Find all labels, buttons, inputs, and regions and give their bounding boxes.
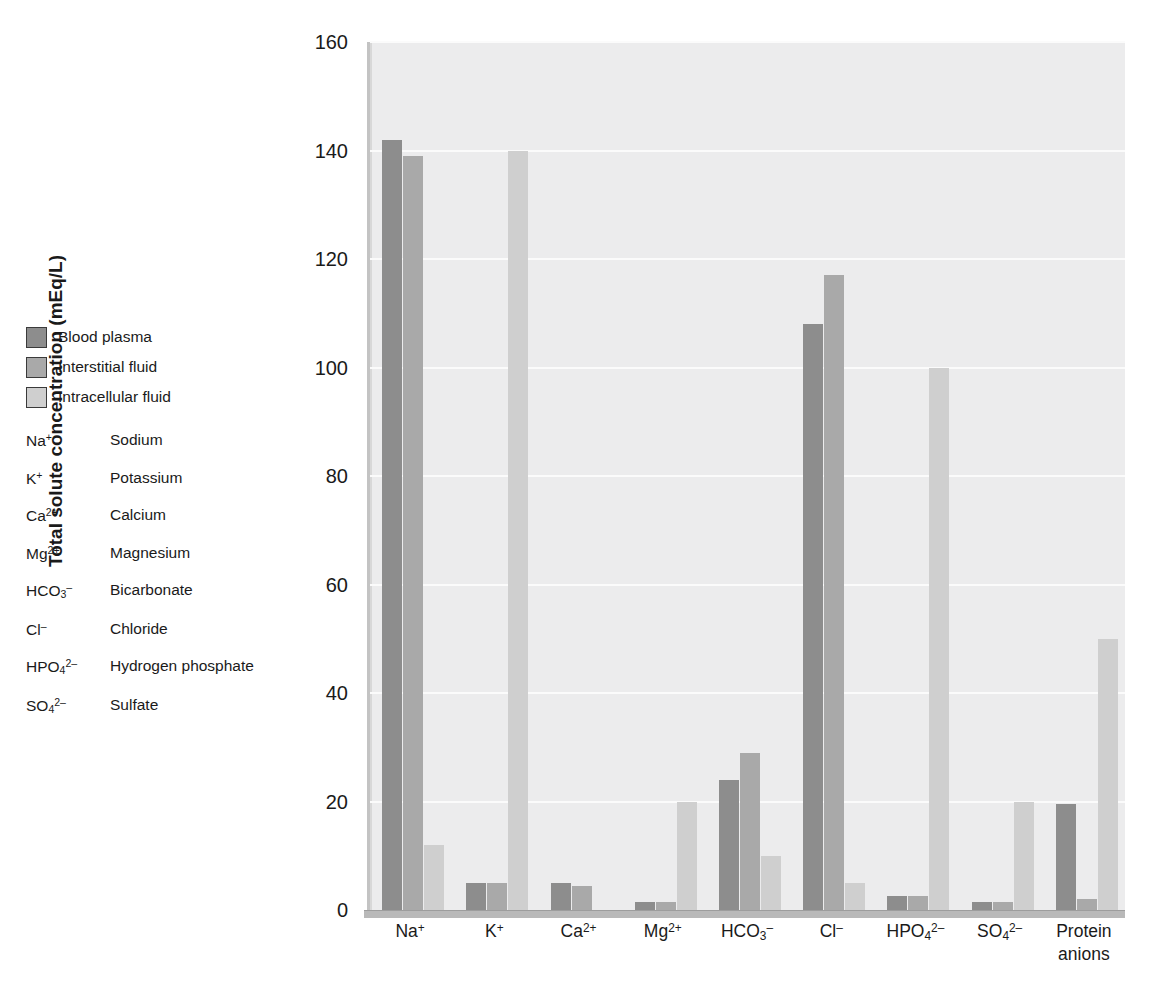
- bar-group: [972, 42, 1036, 910]
- abbreviation-name: Bicarbonate: [110, 581, 193, 599]
- abbreviation-symbol: Mg2+: [26, 544, 110, 563]
- bar: [677, 802, 697, 911]
- bar: [382, 140, 402, 910]
- abbreviation-symbol: Ca2+: [26, 506, 110, 525]
- bar: [824, 275, 844, 910]
- bars-layer: [370, 42, 1125, 910]
- bar: [1077, 899, 1097, 910]
- bar: [972, 902, 992, 910]
- bar-group: [1056, 42, 1120, 910]
- legend-swatch-intracellular-fluid: [26, 387, 47, 408]
- abbreviation-symbol: Cl–: [26, 620, 110, 639]
- abbreviation-row: HPO42–Hydrogen phosphate: [26, 657, 276, 676]
- bar: [993, 902, 1013, 910]
- x-axis-tick-label: Cl–: [820, 920, 843, 943]
- y-axis-title: Total solute concentration (mEq/L): [45, 251, 67, 571]
- plot-area: [367, 42, 1125, 910]
- x-axis-baseline: [364, 910, 1125, 918]
- bar: [740, 753, 760, 910]
- y-axis-tick-label: 60: [326, 575, 348, 595]
- x-axis-tick-label: Na+: [395, 920, 424, 943]
- y-axis-tick-label: 40: [326, 683, 348, 703]
- bar: [929, 368, 949, 911]
- x-axis-tick-label: Mg2+: [644, 920, 682, 943]
- y-axis-tick-label: 160: [315, 32, 348, 52]
- abbreviation-name: Chloride: [110, 620, 168, 638]
- bar-group: [551, 42, 615, 910]
- bar: [761, 856, 781, 910]
- bar: [403, 156, 423, 910]
- abbreviation-name: Sulfate: [110, 696, 158, 714]
- bar-group: [382, 42, 446, 910]
- abbreviation-name: Hydrogen phosphate: [110, 657, 254, 675]
- bar: [887, 896, 907, 910]
- bar: [635, 902, 655, 910]
- abbreviation-row: HCO3–Bicarbonate: [26, 581, 276, 600]
- y-axis-tick-labels: 020406080100120140160: [300, 42, 358, 910]
- x-axis-tick-label: HPO42–: [887, 920, 945, 944]
- x-axis-tick-label: K+: [485, 920, 504, 943]
- x-axis-tick-label: HCO3–: [721, 920, 773, 944]
- y-axis-tick-label: 120: [315, 249, 348, 269]
- y-axis-tick-label: 80: [326, 466, 348, 486]
- abbreviation-row: Cl–Chloride: [26, 620, 276, 639]
- bar-group: [887, 42, 951, 910]
- abbreviation-symbol: HCO3–: [26, 581, 110, 600]
- x-axis-tick-label: SO42–: [977, 920, 1022, 944]
- legend-label-intracellular-fluid: Intracellular fluid: [58, 389, 171, 405]
- legend-swatch-interstitial-fluid: [26, 357, 47, 378]
- x-axis-tick-labels: Na+K+Ca2+Mg2+HCO3–Cl–HPO42–SO42–Proteina…: [367, 920, 1125, 990]
- abbreviation-row: SO42–Sulfate: [26, 696, 276, 715]
- bar: [572, 886, 592, 910]
- bar: [487, 883, 507, 910]
- legend-label-blood-plasma: Blood plasma: [58, 329, 152, 345]
- abbreviation-name: Potassium: [110, 469, 182, 487]
- bar: [845, 883, 865, 910]
- abbreviation-symbol: HPO42–: [26, 657, 110, 676]
- y-axis-tick-label: 20: [326, 792, 348, 812]
- bar: [719, 780, 739, 910]
- bar: [1014, 802, 1034, 911]
- y-axis-tick-label: 140: [315, 141, 348, 161]
- abbreviation-name: Calcium: [110, 506, 166, 524]
- x-axis-tick-label: Proteinanions: [1056, 920, 1111, 966]
- bar: [551, 883, 571, 910]
- abbreviation-name: Sodium: [110, 431, 163, 449]
- bar-group: [466, 42, 530, 910]
- bar: [466, 883, 486, 910]
- bar: [508, 151, 528, 911]
- abbreviation-symbol: SO42–: [26, 696, 110, 715]
- abbreviation-symbol: K+: [26, 469, 110, 488]
- x-axis-tick-label: Ca2+: [561, 920, 597, 943]
- bar-group: [635, 42, 699, 910]
- bar: [424, 845, 444, 910]
- bar: [656, 902, 676, 910]
- abbreviation-name: Magnesium: [110, 544, 190, 562]
- y-axis-tick-label: 0: [337, 900, 348, 920]
- bar: [1098, 639, 1118, 910]
- bar: [908, 896, 928, 910]
- legend-swatch-blood-plasma: [26, 327, 47, 348]
- bar-group: [719, 42, 783, 910]
- legend-label-interstitial-fluid: Interstitial fluid: [58, 359, 157, 375]
- bar: [803, 324, 823, 910]
- abbreviation-symbol: Na+: [26, 431, 110, 450]
- bar: [1056, 804, 1076, 910]
- bar-group: [803, 42, 867, 910]
- y-axis-tick-label: 100: [315, 358, 348, 378]
